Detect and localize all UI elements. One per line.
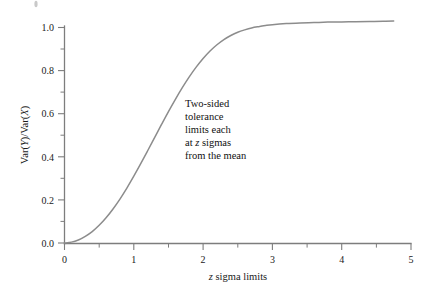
y-axis-title-pre: Var(: [19, 146, 31, 165]
annotation-line: from the mean: [185, 150, 247, 161]
annotation-line: limits each: [185, 124, 232, 135]
variance-ratio-line-chart: 1.0 0.8 0.6 0.4 0.2 0.0 Var(Y)/Var(X): [0, 0, 432, 288]
x-tick-label: 3: [270, 254, 275, 265]
x-axis-title-post: sigma limits: [213, 271, 267, 282]
annotation-line: Two-sided: [185, 98, 230, 109]
y-tick-label: 0.8: [42, 65, 55, 76]
svg-text:Var(Y)/Var(X): Var(Y)/Var(X): [19, 105, 31, 164]
y-tick-label: 1.0: [42, 22, 55, 33]
x-tick-label: 5: [409, 254, 414, 265]
x-tick-label: 0: [62, 254, 67, 265]
y-tick-label: 0.0: [42, 238, 55, 249]
x-axis: 0 1 2 3 4 5: [62, 244, 414, 266]
annotation-line-pre: at: [185, 137, 195, 148]
annotation-line-pre: limits each: [185, 124, 232, 135]
y-axis-title-post: ): [19, 105, 31, 109]
y-axis: 1.0 0.8 0.6 0.4 0.2 0.0: [42, 22, 65, 249]
annotation-line-pre: Two-sided: [185, 98, 230, 109]
annotation-line: tolerance: [185, 111, 224, 122]
x-tick-label: 1: [131, 254, 136, 265]
y-tick-label: 0.4: [42, 152, 55, 163]
x-axis-title: z sigma limits: [208, 271, 267, 282]
x-tick-label: 4: [339, 254, 344, 265]
annotation-line-pre: tolerance: [185, 111, 224, 122]
y-tick-label: 0.6: [42, 108, 55, 119]
curve-note-annotation: Two-sided tolerance limits each at z sig…: [185, 98, 247, 161]
annotation-line-post: sigmas: [199, 137, 231, 148]
annotation-line: at z sigmas: [185, 137, 231, 148]
y-axis-title-mid: )/Var(: [19, 115, 31, 140]
y-tick-label: 0.2: [42, 195, 55, 206]
x-tick-label: 2: [201, 254, 206, 265]
scan-artifact-speck: [34, 1, 37, 7]
chart-figure: 1.0 0.8 0.6 0.4 0.2 0.0 Var(Y)/Var(X): [0, 0, 432, 288]
annotation-line-pre: from the mean: [185, 150, 247, 161]
y-axis-title: Var(Y)/Var(X): [19, 105, 31, 164]
